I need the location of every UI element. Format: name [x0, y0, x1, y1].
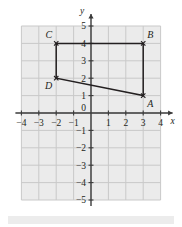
- y-tick-label: −1: [76, 126, 86, 136]
- coordinate-plane-graph: −4−3−2−1123454321−1−2−3−4−50xyABCD: [0, 0, 182, 227]
- x-axis-arrowhead-icon: [168, 110, 173, 115]
- y-tick-label: −5: [76, 195, 86, 205]
- x-tick-label: 1: [106, 118, 111, 128]
- y-tick-label: 1: [81, 91, 86, 101]
- vertex-label-b: B: [147, 29, 153, 40]
- y-tick-label: 5: [81, 21, 86, 31]
- y-tick-label: 2: [81, 74, 86, 84]
- x-tick-label: 4: [158, 118, 163, 128]
- origin-label: 0: [81, 103, 86, 113]
- x-tick-label: −4: [16, 118, 26, 128]
- x-tick-label: 3: [141, 118, 146, 128]
- y-axis-arrowhead-icon: [88, 14, 93, 19]
- y-tick-label: −2: [76, 143, 86, 153]
- y-tick-label: 3: [81, 56, 86, 66]
- figure-root: −4−3−2−1123454321−1−2−3−4−50xyABCD: [0, 0, 182, 227]
- y-axis-label: y: [79, 6, 85, 16]
- x-tick-label: 2: [123, 118, 128, 128]
- bottom-decorative-bar: [8, 216, 174, 224]
- x-axis-label: x: [169, 116, 175, 126]
- x-tick-label: −3: [34, 118, 44, 128]
- vertex-label-d: D: [44, 80, 53, 91]
- vertex-label-a: A: [146, 98, 154, 109]
- y-tick-label: −4: [76, 178, 86, 188]
- vertex-label-c: C: [46, 29, 53, 40]
- x-tick-label: −2: [51, 118, 61, 128]
- y-tick-label: −3: [76, 161, 86, 171]
